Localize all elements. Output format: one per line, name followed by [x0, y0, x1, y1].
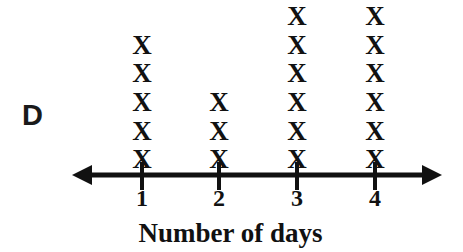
x-mark: X — [120, 31, 164, 60]
axis-left-arrowhead — [72, 165, 92, 185]
x-mark: X — [197, 117, 241, 146]
x-mark: X — [120, 117, 164, 146]
x-stack-category-2: XXX — [197, 88, 241, 174]
x-stack-category-1: XXXXX — [120, 31, 164, 174]
x-mark: X — [353, 117, 397, 146]
line-plot-figure: D XXXXX XXX XXXXXX XXXXXXX 1 2 3 4 Numbe… — [0, 0, 463, 252]
tick-label-2: 2 — [199, 186, 239, 210]
x-mark: X — [275, 59, 319, 88]
x-mark: X — [275, 145, 319, 174]
x-mark: X — [353, 145, 397, 174]
x-mark: X — [353, 59, 397, 88]
x-mark: X — [353, 2, 397, 31]
x-mark: X — [353, 88, 397, 117]
axis-title: Number of days — [0, 218, 463, 248]
x-stack-category-3: XXXXXX — [275, 2, 319, 174]
x-mark: X — [275, 88, 319, 117]
tick-label-3: 3 — [277, 186, 317, 210]
tick-label-4: 4 — [355, 186, 395, 210]
x-mark: X — [353, 31, 397, 60]
x-mark: X — [197, 88, 241, 117]
x-stack-category-4: XXXXXXX — [353, 0, 397, 174]
axis-right-arrowhead — [422, 165, 442, 185]
x-mark: X — [197, 145, 241, 174]
x-mark: X — [120, 145, 164, 174]
x-mark: X — [275, 117, 319, 146]
x-mark: X — [120, 59, 164, 88]
axis-title-text: Number of days — [138, 218, 322, 248]
x-mark: X — [275, 2, 319, 31]
tick-label-1: 1 — [122, 186, 162, 210]
plot-area: XXXXX XXX XXXXXX XXXXXXX 1 2 3 4 Number … — [0, 0, 463, 252]
x-mark: X — [275, 31, 319, 60]
x-mark: X — [120, 88, 164, 117]
